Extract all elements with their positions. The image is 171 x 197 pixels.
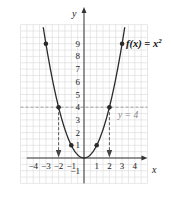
y-tick-label: 9: [76, 39, 81, 49]
chart-canvas: −4−3−2−11234−1123456789 y x f(x) = x2 y …: [0, 0, 171, 197]
y-tick-label: 6: [76, 77, 81, 87]
data-point: [69, 143, 74, 148]
function-label: f(x) = x2: [126, 37, 162, 50]
arrow-head-down-icon: [107, 150, 113, 158]
y-tick-label: 4: [76, 102, 81, 112]
x-tick-label: −3: [41, 161, 51, 171]
x-axis-arrow-icon: [141, 156, 147, 161]
y-tick-label: 3: [76, 115, 81, 125]
y-axis-arrow-icon: [82, 7, 87, 13]
y-tick-label: 8: [76, 51, 81, 61]
y-axis-label: y: [71, 8, 77, 19]
parabola-figure: −4−3−2−11234−1123456789 y x f(x) = x2 y …: [0, 0, 171, 197]
data-point: [94, 143, 99, 148]
data-point: [120, 41, 125, 46]
data-point: [107, 105, 112, 110]
function-label-base: f(x) = x: [126, 38, 158, 50]
data-point: [44, 41, 49, 46]
arrow-head-down-icon: [56, 150, 62, 158]
x-tick-label: −4: [28, 161, 38, 171]
hline-label: y = 4: [117, 110, 138, 120]
x-tick-label: −2: [54, 161, 64, 171]
data-point: [56, 105, 61, 110]
y-tick-label: 5: [76, 90, 81, 100]
y-tick-label: −1: [70, 166, 80, 176]
x-tick-label: 4: [133, 161, 138, 171]
x-tick-label: 2: [107, 161, 112, 171]
labels: y x f(x) = x2 y = 4: [71, 8, 162, 175]
x-tick-label: 1: [94, 161, 99, 171]
x-tick-label: 3: [120, 161, 125, 171]
x-axis-label: x: [151, 164, 157, 175]
y-tick-label: 7: [76, 64, 81, 74]
function-label-exponent: 2: [157, 37, 162, 45]
y-tick-label: 1: [76, 140, 81, 150]
y-tick-label: 2: [76, 128, 81, 138]
